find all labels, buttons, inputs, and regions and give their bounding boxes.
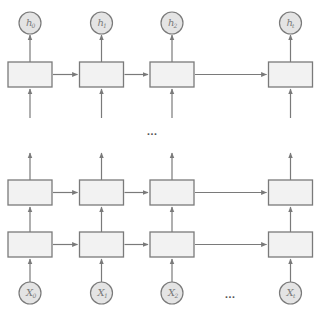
input-x2-subscript: 2 [174, 292, 179, 299]
nodes-group [19, 12, 302, 304]
top-layer-cell-2 [150, 62, 194, 87]
top-layer-cell-3 [269, 62, 313, 87]
top-layer-cell-1 [80, 62, 124, 87]
bottom-layer-cell-3 [269, 232, 313, 257]
bottom-layer-cell-0 [8, 232, 52, 257]
bottom-layer-cell-1 [80, 232, 124, 257]
output-h2-subscript: 2 [173, 22, 178, 29]
top-layer-cell-0 [8, 62, 52, 87]
stacked-rnn-diagram: h0h1h2htX0X1X2Xt...... [0, 0, 320, 314]
middle-layer-cell-3 [269, 180, 313, 205]
output-h1-subscript: 1 [103, 22, 107, 29]
middle-layer-cell-2 [150, 180, 194, 205]
bottom-layer-cell-2 [150, 232, 194, 257]
cells-group [8, 62, 313, 257]
output-h0-subscript: 0 [32, 22, 36, 29]
middle-layer-cell-0 [8, 180, 52, 205]
layer-gap-ellipsis: ... [147, 127, 157, 137]
input-x1-subscript: 1 [104, 292, 108, 299]
time-gap-ellipsis: ... [225, 290, 235, 300]
middle-layer-cell-1 [80, 180, 124, 205]
input-x0-subscript: 0 [33, 292, 37, 299]
